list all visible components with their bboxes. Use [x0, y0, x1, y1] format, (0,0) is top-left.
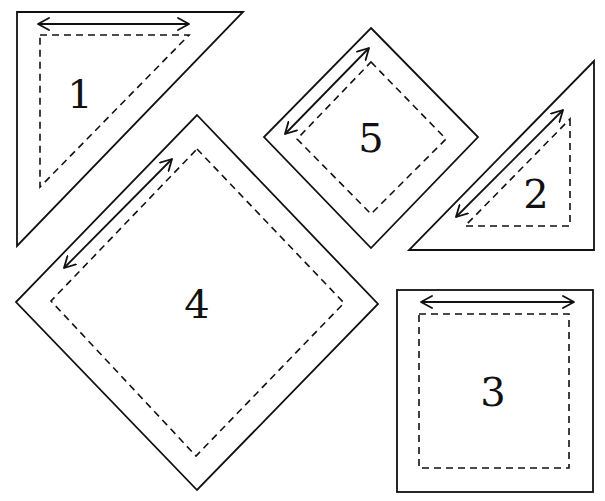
- piece-2-label: 2: [523, 171, 548, 217]
- quilt-pattern-diagram: 1 5 2 4 3: [0, 0, 605, 501]
- piece-1: 1: [17, 12, 243, 246]
- piece-2-seam-line: [465, 119, 570, 226]
- piece-5-label: 5: [358, 115, 383, 161]
- piece-1-cut-line: [17, 12, 243, 246]
- piece-4-label: 4: [184, 281, 209, 327]
- piece-3: 3: [397, 290, 593, 492]
- piece-1-label: 1: [67, 71, 92, 117]
- piece-4-grain-arrow-icon: [64, 159, 172, 268]
- piece-5: 5: [264, 28, 478, 248]
- piece-3-label: 3: [480, 369, 505, 415]
- piece-4: 4: [16, 115, 378, 490]
- piece-2: 2: [409, 61, 594, 250]
- piece-2-cut-line: [409, 61, 594, 250]
- piece-5-grain-arrow-icon: [285, 48, 369, 134]
